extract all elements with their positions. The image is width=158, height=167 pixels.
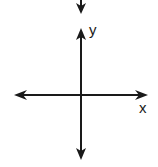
- x-axis-label: x: [139, 99, 147, 116]
- coordinate-axes-diagram: y x: [0, 0, 158, 167]
- y-axis-label: y: [89, 21, 97, 38]
- top-down-arrow: [76, 0, 86, 14]
